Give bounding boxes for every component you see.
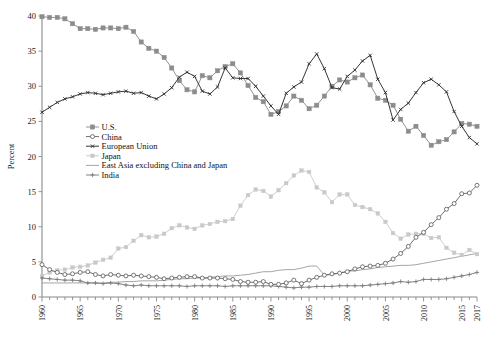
data-point [338,271,342,275]
data-point [345,284,349,288]
data-point [360,284,364,288]
data-point [63,278,67,282]
data-point [200,224,204,228]
y-tick-label: 40 [28,11,37,21]
data-point [223,219,227,223]
data-point [238,71,242,75]
data-point [93,273,97,277]
legend-item-european-union[interactable]: European Union [86,141,158,151]
data-point [216,220,220,224]
legend-item-china[interactable]: China [86,132,122,142]
data-point [284,181,288,185]
x-tick-label: 2017 [473,305,482,321]
data-point [383,282,387,286]
data-point [406,280,410,284]
data-point [177,284,181,288]
data-point [368,283,372,287]
series-east-asia-excluding-china-and-japan [42,253,477,283]
data-point [460,253,464,257]
data-point [460,274,464,278]
data-point [430,78,433,81]
data-point [116,27,120,31]
x-tick-label: 2005 [382,305,391,321]
data-point [93,27,97,31]
data-point [185,284,189,288]
data-point [467,122,471,126]
data-point [170,66,174,70]
data-point [475,183,479,187]
legend-item-u-s[interactable]: U.S. [86,122,117,132]
data-point [116,273,120,277]
data-point [170,276,174,280]
data-point [193,227,197,231]
data-point [292,85,295,88]
data-point [307,170,311,174]
data-point [254,280,258,284]
data-point [407,101,410,104]
data-point [262,189,266,193]
data-point [78,270,82,274]
data-point [437,140,441,144]
data-point [231,277,235,281]
data-point [399,251,403,255]
data-point [368,207,372,211]
data-point [322,94,326,98]
data-point [71,266,75,270]
data-point [376,96,380,100]
data-point [307,278,311,282]
data-point [437,277,441,281]
legend-item-japan[interactable]: Japan [86,151,122,161]
chart-container: 0510152025303540Percent19601965197019751… [0,0,484,339]
x-tick-label: 1960 [38,305,47,321]
data-point [71,272,75,276]
data-point [460,192,464,196]
data-point [384,220,388,224]
data-point [91,154,95,158]
legend-label: India [102,170,120,180]
data-point [399,108,402,111]
data-point [193,90,197,94]
data-point [475,142,478,145]
data-point [154,49,158,53]
data-point [391,231,395,235]
data-point [200,284,204,288]
legend-item-india[interactable]: India [86,170,119,180]
series-line [42,253,477,283]
y-tick-group: 0510152025303540 [28,11,43,302]
series-china [40,183,479,286]
data-point [246,193,250,197]
data-point [208,276,212,280]
legend-item-east-asia-excluding-china-and-japan[interactable]: East Asia excluding China and Japan [86,160,228,170]
data-point [475,270,479,274]
series-line [42,185,477,284]
data-point [162,277,166,281]
data-point [139,283,143,287]
data-point [269,112,273,116]
data-point [299,98,303,102]
data-point [429,223,433,227]
data-point [178,224,182,228]
data-point [407,233,411,237]
data-point [475,124,479,128]
x-tick-label: 1970 [115,305,124,321]
data-point [208,76,212,80]
data-point [63,17,67,21]
x-tick-label: 2010 [420,305,429,321]
data-point [353,68,356,71]
data-point [284,104,288,108]
data-point [399,117,403,121]
legend-label: Japan [102,151,122,161]
data-point [368,83,372,87]
data-point [421,277,425,281]
data-point [345,193,349,197]
data-point [208,222,212,226]
legend-label: European Union [102,141,159,151]
data-point [429,236,433,240]
series-japan [40,169,479,278]
data-point [70,22,74,26]
y-tick-label: 5 [32,257,36,267]
data-point [452,251,456,255]
data-point [216,276,220,280]
x-tick-label: 1990 [267,305,276,321]
data-point [124,283,128,287]
